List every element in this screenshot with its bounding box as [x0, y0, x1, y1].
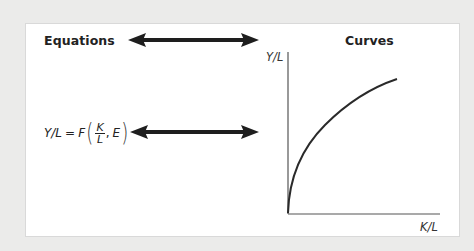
heading-double-arrow-icon — [128, 33, 259, 47]
production-curve — [288, 79, 397, 213]
diagram-graphics — [0, 0, 474, 251]
x-axis-label: K/L — [420, 220, 438, 234]
y-axis-label: Y/L — [266, 50, 283, 64]
equation-double-arrow-icon — [130, 125, 259, 139]
